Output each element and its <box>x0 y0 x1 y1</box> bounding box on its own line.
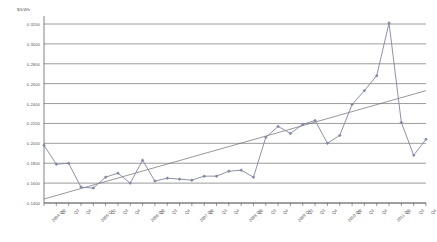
trendline <box>44 91 426 199</box>
gridlines <box>44 24 426 203</box>
data-point-markers <box>43 22 428 190</box>
x-axis-ticks <box>44 203 426 206</box>
